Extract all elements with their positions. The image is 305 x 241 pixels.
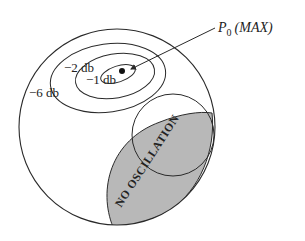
- contour-1db-label: −1 db: [86, 72, 116, 87]
- max-point-leader-arrow: [131, 28, 215, 69]
- contour-6db-label: −6 db: [29, 85, 59, 100]
- max-point: [119, 68, 125, 74]
- smith-chart-diagram: P0(MAX) −6 db −2 db −1 db NO OSCILLATION: [0, 0, 305, 241]
- max-point-label: P0(MAX): [217, 20, 273, 38]
